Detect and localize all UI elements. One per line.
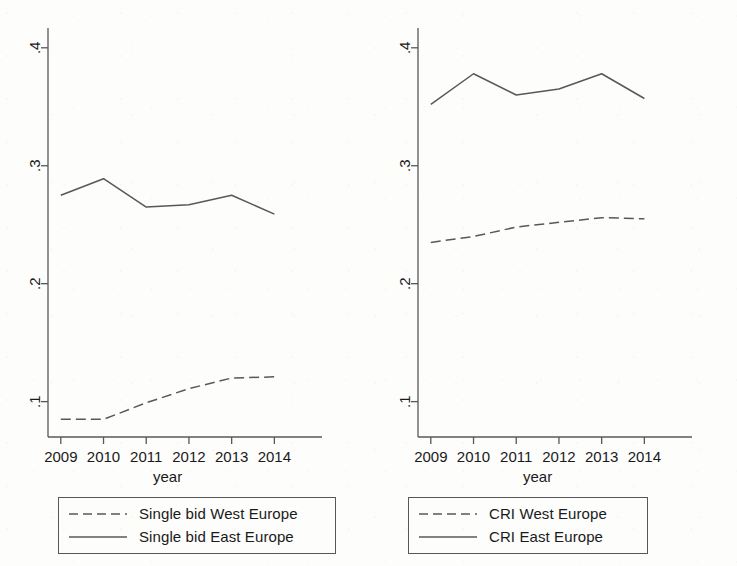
plot-area-left: .1.2.3.4200920102011201220132014year	[0, 0, 368, 490]
legend-key-dashed-icon	[67, 507, 129, 521]
svg-text:.1: .1	[27, 395, 44, 408]
svg-text:2013: 2013	[585, 448, 618, 465]
svg-text:.2: .2	[397, 277, 414, 290]
svg-text:2012: 2012	[542, 448, 575, 465]
chart-panel-left: .1.2.3.4200920102011201220132014year Sin…	[0, 0, 368, 566]
panel-container: .1.2.3.4200920102011201220132014year Sin…	[0, 0, 737, 566]
svg-text:2014: 2014	[628, 448, 661, 465]
figure-canvas: .1.2.3.4200920102011201220132014year Sin…	[0, 0, 737, 566]
svg-text:year: year	[153, 468, 182, 485]
legend-right: CRI West Europe CRI East Europe	[408, 497, 648, 554]
svg-text:2014: 2014	[258, 448, 291, 465]
legend-item: Single bid West Europe	[67, 502, 325, 525]
svg-text:2011: 2011	[500, 448, 532, 465]
legend-label-west: CRI West Europe	[489, 506, 607, 521]
plot-area-right: .1.2.3.4200920102011201220132014year	[368, 0, 737, 490]
legend-label-west: Single bid West Europe	[139, 506, 298, 521]
line-chart-left: .1.2.3.4200920102011201220132014year	[0, 0, 368, 490]
svg-text:.2: .2	[27, 277, 44, 290]
legend-label-east: Single bid East Europe	[139, 529, 294, 544]
legend-key-dashed-icon	[417, 507, 479, 521]
legend-key-solid-icon	[67, 530, 129, 544]
svg-text:2009: 2009	[44, 448, 77, 465]
svg-text:.4: .4	[397, 42, 414, 55]
svg-text:.3: .3	[27, 159, 44, 172]
legend-item: Single bid East Europe	[67, 525, 325, 548]
svg-text:2010: 2010	[87, 448, 120, 465]
svg-text:.1: .1	[397, 395, 414, 408]
svg-text:2010: 2010	[457, 448, 490, 465]
svg-text:year: year	[523, 468, 552, 485]
chart-panel-right: .1.2.3.4200920102011201220132014year CRI…	[368, 0, 737, 566]
svg-text:2013: 2013	[215, 448, 248, 465]
svg-text:2009: 2009	[414, 448, 447, 465]
svg-text:.4: .4	[27, 42, 44, 55]
line-chart-right: .1.2.3.4200920102011201220132014year	[368, 0, 737, 490]
legend-key-solid-icon	[417, 530, 479, 544]
legend-label-east: CRI East Europe	[489, 529, 603, 544]
svg-text:2011: 2011	[130, 448, 162, 465]
legend-item: CRI East Europe	[417, 525, 637, 548]
svg-text:.3: .3	[397, 159, 414, 172]
legend-left: Single bid West Europe Single bid East E…	[58, 497, 336, 554]
svg-text:2012: 2012	[172, 448, 205, 465]
legend-item: CRI West Europe	[417, 502, 637, 525]
